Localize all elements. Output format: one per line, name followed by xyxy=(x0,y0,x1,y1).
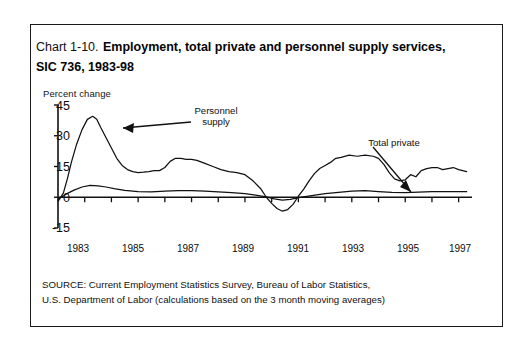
plot-area xyxy=(40,98,480,238)
annotation-total-private: Total private xyxy=(358,137,430,148)
x-tick-1995: 1995 xyxy=(388,243,428,254)
x-tick-1997: 1997 xyxy=(440,243,480,254)
source-line-1: SOURCE: Current Employment Statistics Su… xyxy=(42,277,492,292)
chart-screenshot: Chart 1-10. Employment, total private an… xyxy=(0,0,526,347)
source-line-2: U.S. Department of Labor (calculations b… xyxy=(42,292,492,307)
personnel-supply-arrow xyxy=(123,122,191,133)
total-private-arrow xyxy=(373,147,411,192)
x-tick-1989: 1989 xyxy=(223,243,263,254)
annotation-personnel-line2: supply xyxy=(185,116,247,127)
chart-number-label: Chart 1-10. xyxy=(36,40,99,54)
axes-layer xyxy=(54,105,472,228)
x-tick-1991: 1991 xyxy=(278,243,318,254)
chart-title-block: Chart 1-10. Employment, total private an… xyxy=(36,36,466,76)
x-tick-1987: 1987 xyxy=(168,243,208,254)
annotation-personnel-supply: Personnel supply xyxy=(185,105,247,127)
chart-canvas xyxy=(40,98,480,238)
x-tick-1985: 1985 xyxy=(113,243,153,254)
source-note: SOURCE: Current Employment Statistics Su… xyxy=(42,277,492,307)
annotation-personnel-line1: Personnel xyxy=(185,105,247,116)
x-tick-1983: 1983 xyxy=(58,243,98,254)
x-tick-1993: 1993 xyxy=(333,243,373,254)
